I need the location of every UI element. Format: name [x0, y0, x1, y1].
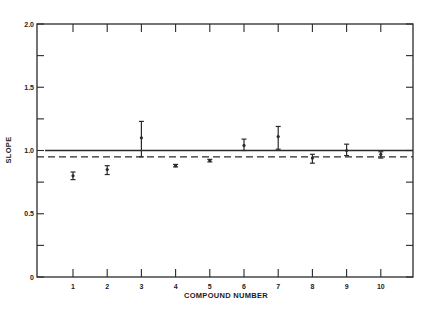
axis-labels: 1234567891000.51.01.52.0 [24, 21, 385, 291]
x-tick-label: 5 [208, 283, 212, 290]
data-point-compound-3 [139, 121, 144, 156]
data-point-compound-2 [105, 166, 110, 175]
data-point-compound-4 [173, 164, 178, 167]
point-marker [106, 168, 109, 171]
x-axis-title: COMPOUND NUMBER [184, 291, 268, 300]
x-tick-label: 8 [310, 283, 314, 290]
x-tick-label: 4 [174, 283, 178, 290]
y-tick-label: 0.5 [24, 210, 34, 217]
x-tick-label: 2 [105, 283, 109, 290]
data-point-compound-7 [276, 126, 281, 149]
data-point-compound-8 [310, 154, 315, 163]
point-marker [311, 156, 314, 159]
point-marker [140, 136, 143, 139]
y-tick-label: 0 [30, 274, 34, 281]
y-tick-label: 2.0 [24, 21, 34, 28]
point-marker [208, 159, 211, 162]
point-marker [345, 149, 348, 152]
x-tick-label: 6 [242, 283, 246, 290]
x-tick-label: 1 [71, 283, 75, 290]
point-marker [71, 174, 74, 177]
point-marker [379, 153, 382, 156]
slope-chart: 1234567891000.51.01.52.0 COMPOUND NUMBER… [0, 0, 428, 315]
point-marker [174, 164, 177, 167]
y-tick-label: 1.0 [24, 147, 34, 154]
x-tick-label: 3 [139, 283, 143, 290]
point-marker [242, 144, 245, 147]
point-marker [277, 135, 280, 138]
x-tick-label: 10 [377, 283, 385, 290]
y-tick-label: 1.5 [24, 84, 34, 91]
reference-lines [37, 151, 413, 157]
y-axis-title: SLOPE [4, 137, 13, 164]
x-tick-label: 7 [276, 283, 280, 290]
data-point-compound-5 [207, 159, 212, 162]
x-tick-label: 9 [345, 283, 349, 290]
data-point-compound-1 [71, 172, 76, 180]
data-point-compound-6 [242, 139, 247, 150]
